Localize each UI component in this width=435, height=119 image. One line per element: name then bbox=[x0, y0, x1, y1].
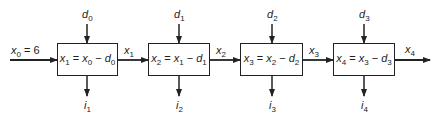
output-label-x2: x2 bbox=[216, 45, 226, 59]
stage-box-1: x1 = x0 − d0 bbox=[57, 43, 118, 76]
return-label-i1: i1 bbox=[84, 100, 91, 114]
decision-label-d0: d0 bbox=[82, 9, 93, 23]
output-label-x4: x4 bbox=[405, 44, 415, 58]
stage-box-2: x2 = x1 − d1 bbox=[148, 43, 210, 76]
output-label-x3: x3 bbox=[309, 45, 319, 59]
return-label-i4: i4 bbox=[361, 100, 368, 114]
return-label-i3: i3 bbox=[269, 100, 276, 114]
input-label: x0 = 6 bbox=[11, 45, 40, 59]
return-label-i2: i2 bbox=[176, 100, 183, 114]
stage-equation-3: x3 = x2 − d2 bbox=[244, 52, 300, 67]
decision-label-d2: d2 bbox=[267, 9, 278, 23]
decision-label-d3: d3 bbox=[359, 9, 370, 23]
decision-label-d1: d1 bbox=[174, 9, 185, 23]
stage-equation-2: x2 = x1 − d1 bbox=[151, 52, 207, 67]
stage-box-4: x4 = x3 − d3 bbox=[333, 43, 395, 76]
stage-equation-4: x4 = x3 − d3 bbox=[336, 52, 392, 67]
stage-box-3: x3 = x2 − d2 bbox=[240, 43, 303, 76]
stage-equation-1: x1 = x0 − d0 bbox=[60, 52, 116, 67]
output-label-x1: x1 bbox=[124, 45, 134, 59]
